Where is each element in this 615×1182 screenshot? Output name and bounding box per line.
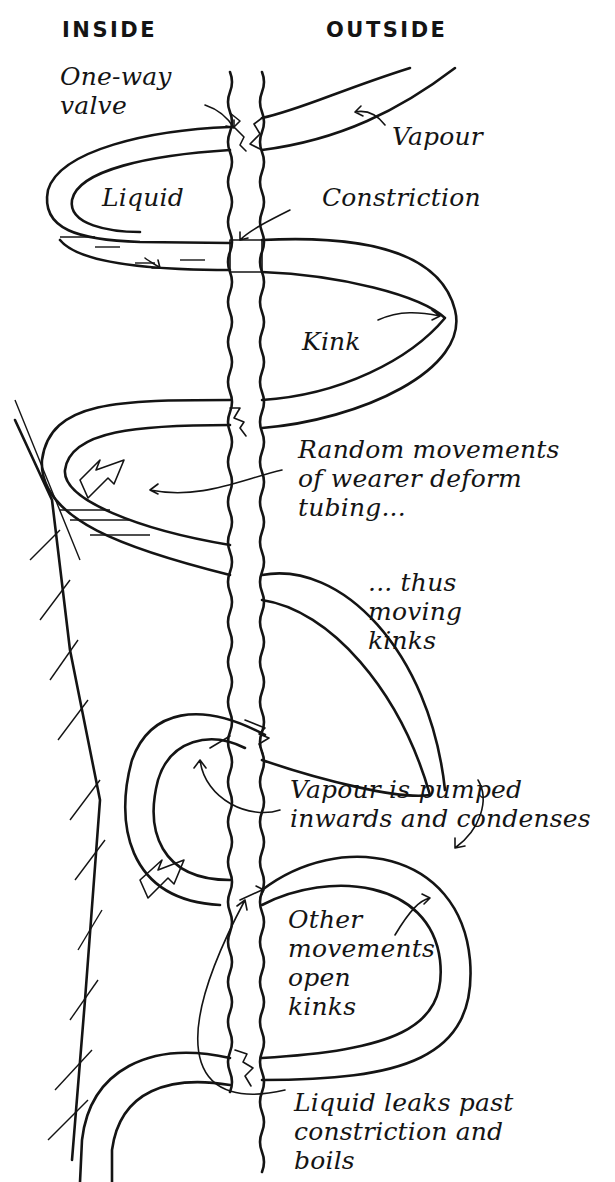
kink-label: Kink [302,327,361,356]
one-way-valve-label: One-way valve [60,62,172,120]
body-surface [15,400,105,1160]
vapour-label: Vapour [392,122,483,151]
garment-wall [228,72,264,1172]
constriction-label: Constriction [322,183,481,212]
vapour-pumped-label: Vapour is pumped inwards and condenses [290,775,591,833]
liquid-label: Liquid [102,183,184,212]
liquid-leaks-label: Liquid leaks past constriction and boils [294,1088,513,1175]
random-movements-label: Random movements of wearer deform tubing… [298,435,559,522]
tubing-kink-loop [60,239,456,428]
thus-moving-kinks-label: ... thus moving kinks [368,568,462,655]
other-movements-label: Other movements open kinks [288,905,435,1021]
outside-column-label: OUTSIDE [326,18,447,42]
inside-column-label: INSIDE [62,18,157,42]
